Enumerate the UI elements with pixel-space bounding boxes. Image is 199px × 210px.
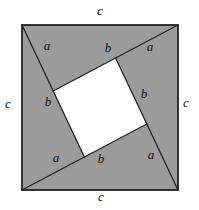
label-c-left: c <box>5 96 11 111</box>
label-b-top: b <box>105 40 112 55</box>
label-b-right: b <box>141 86 148 101</box>
label-b-left: b <box>45 94 52 109</box>
label-a-top-right: a <box>147 39 154 54</box>
pythagorean-diagram-page: c c c c a a a a b b b b <box>0 0 199 210</box>
label-a-top-left: a <box>44 38 51 53</box>
label-c-top: c <box>97 3 103 18</box>
label-a-bottom-left: a <box>53 150 60 165</box>
label-c-right: c <box>183 95 189 110</box>
label-c-bottom: c <box>98 189 104 204</box>
label-b-bottom: b <box>98 151 105 166</box>
label-a-bottom-right: a <box>148 147 155 162</box>
pythagorean-square-diagram: c c c c a a a a b b b b <box>0 0 199 210</box>
